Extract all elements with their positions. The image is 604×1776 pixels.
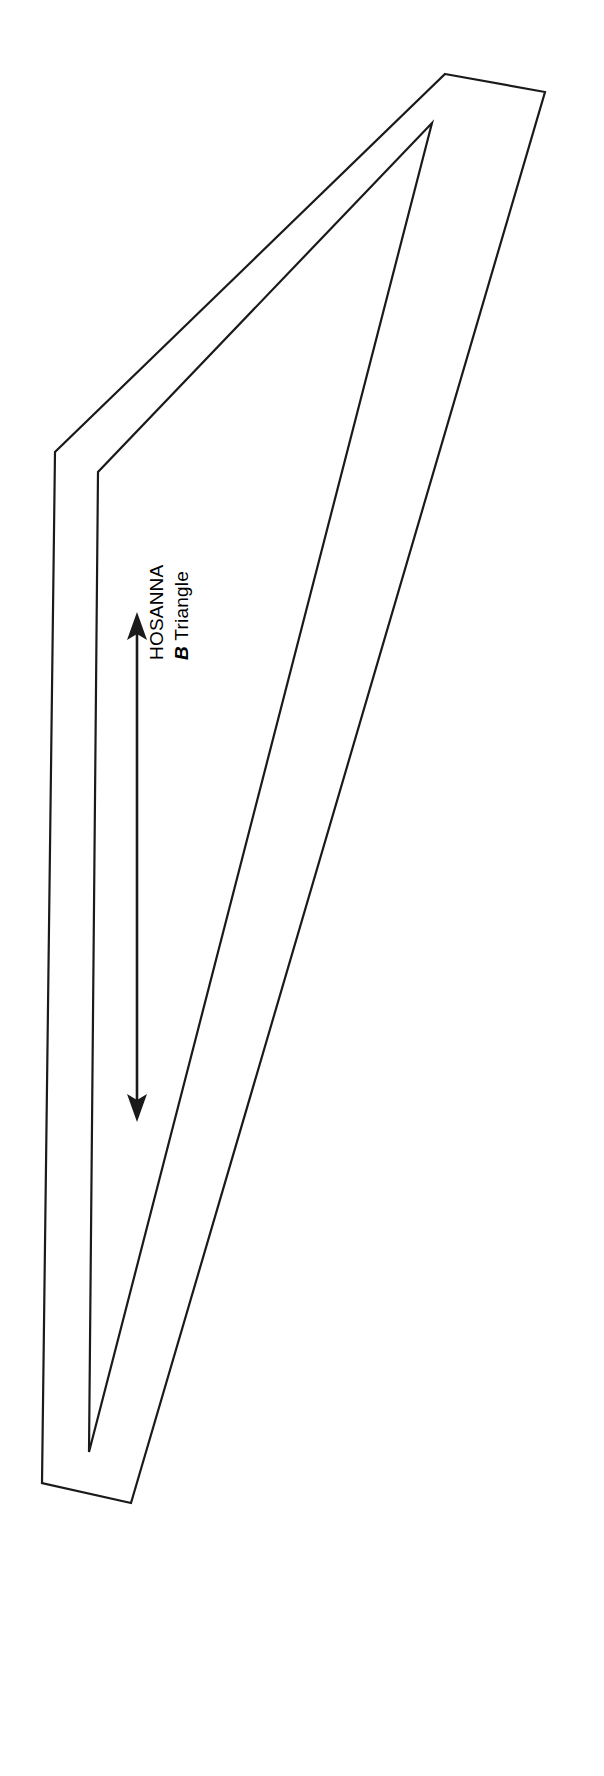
figure-background — [0, 0, 604, 1776]
triangle-figure-drawing — [0, 0, 604, 1776]
figure-page: HOSANNA B Triangle — [0, 0, 604, 1776]
